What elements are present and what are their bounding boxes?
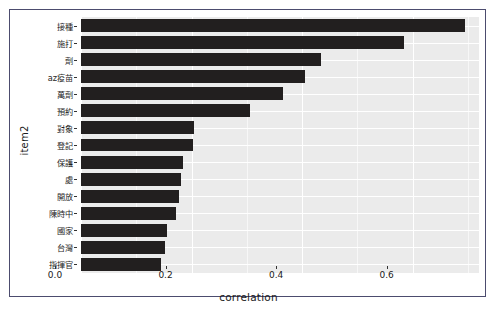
bar bbox=[81, 173, 181, 186]
x-axis-tick-labels: 0.00.20.40.6 bbox=[55, 266, 453, 286]
y-axis-tick-mark bbox=[74, 179, 77, 180]
y-axis-tick: 處 bbox=[65, 172, 73, 186]
y-axis-tick-mark bbox=[74, 145, 77, 146]
y-axis-tick-label: 陳時中 bbox=[49, 207, 73, 219]
y-axis-tick-mark bbox=[74, 230, 77, 231]
y-axis-tick: 保護 bbox=[57, 155, 73, 169]
bar bbox=[81, 241, 165, 254]
bar bbox=[81, 19, 465, 32]
x-axis-title-text: correlation bbox=[219, 291, 278, 303]
y-axis-title-text: item2 bbox=[20, 125, 31, 155]
bar bbox=[81, 36, 404, 49]
x-axis-title: correlation bbox=[10, 291, 487, 303]
x-axis-tick-label: 0.6 bbox=[379, 270, 393, 280]
y-axis-tick-mark bbox=[74, 60, 77, 61]
y-axis-tick: 接種 bbox=[57, 19, 73, 33]
x-axis-tick-mark bbox=[387, 266, 388, 269]
bar bbox=[81, 156, 183, 169]
y-axis-tick-label: 施打 bbox=[57, 37, 73, 49]
bar bbox=[81, 139, 193, 152]
y-axis-tick-label: 萬劑 bbox=[57, 88, 73, 100]
y-axis-tick-mark bbox=[74, 128, 77, 129]
chart-figure: item2 接種施打劑az疫苗萬劑預約對象登記保護處開放陳時中國家台灣指揮官 0… bbox=[9, 9, 486, 297]
y-axis-tick-mark bbox=[74, 247, 77, 248]
bar bbox=[81, 207, 176, 220]
y-axis-tick-label: 台灣 bbox=[57, 241, 73, 253]
y-axis-tick-mark bbox=[74, 264, 77, 265]
x-axis-tick-label: 0.2 bbox=[158, 270, 172, 280]
y-axis-tick: az疫苗 bbox=[48, 70, 73, 84]
y-axis-tick: 開放 bbox=[57, 189, 73, 203]
x-axis-tick-mark bbox=[276, 266, 277, 269]
y-axis-tick-mark bbox=[74, 43, 77, 44]
y-axis-tick-mark bbox=[74, 213, 77, 214]
plot-area: 接種施打劑az疫苗萬劑預約對象登記保護處開放陳時中國家台灣指揮官 bbox=[36, 17, 479, 273]
y-axis-tick-label: az疫苗 bbox=[48, 71, 73, 83]
y-axis-tick: 劑 bbox=[65, 53, 73, 67]
y-axis-tick: 國家 bbox=[57, 223, 73, 237]
y-axis-tick: 台灣 bbox=[57, 240, 73, 254]
chart-panel bbox=[81, 17, 479, 273]
y-axis-tick-label: 對象 bbox=[57, 122, 73, 134]
y-axis-tick-label: 保護 bbox=[57, 156, 73, 168]
y-axis-tick-label: 登記 bbox=[57, 139, 73, 151]
y-axis-tick-labels: 接種施打劑az疫苗萬劑預約對象登記保護處開放陳時中國家台灣指揮官 bbox=[36, 17, 77, 273]
y-axis-tick-label: 接種 bbox=[57, 20, 73, 32]
bar bbox=[81, 70, 305, 83]
x-axis-tick-mark bbox=[55, 266, 56, 269]
bar bbox=[81, 53, 321, 66]
y-axis-tick-mark bbox=[74, 26, 77, 27]
y-axis-tick-mark bbox=[74, 77, 77, 78]
x-axis-tick-label: 0.0 bbox=[48, 270, 62, 280]
y-axis-tick: 施打 bbox=[57, 36, 73, 50]
y-axis-tick: 對象 bbox=[57, 121, 73, 135]
y-axis-tick: 預約 bbox=[57, 104, 73, 118]
y-axis-tick-label: 開放 bbox=[57, 190, 73, 202]
y-axis-tick: 登記 bbox=[57, 138, 73, 152]
y-axis-tick-label: 預約 bbox=[57, 105, 73, 117]
y-axis-tick-mark bbox=[74, 111, 77, 112]
bar bbox=[81, 104, 250, 117]
x-axis-tick-label: 0.4 bbox=[269, 270, 283, 280]
y-axis-title: item2 bbox=[16, 10, 34, 270]
bar bbox=[81, 121, 194, 134]
y-axis-tick-label: 劑 bbox=[65, 54, 73, 66]
y-axis-tick-label: 國家 bbox=[57, 224, 73, 236]
x-axis-tick-mark bbox=[166, 266, 167, 269]
y-axis-tick-label: 處 bbox=[65, 173, 73, 185]
y-axis-tick-mark bbox=[74, 162, 77, 163]
bar bbox=[81, 190, 179, 203]
y-axis-tick: 萬劑 bbox=[57, 87, 73, 101]
bar bbox=[81, 224, 167, 237]
y-axis-tick-mark bbox=[74, 94, 77, 95]
y-axis-tick: 陳時中 bbox=[49, 206, 73, 220]
bar bbox=[81, 87, 283, 100]
y-axis-tick-mark bbox=[74, 196, 77, 197]
